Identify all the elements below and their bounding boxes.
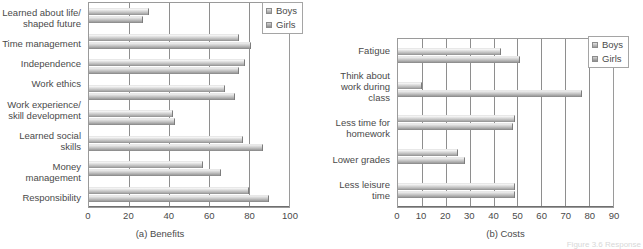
bar-girls	[89, 169, 221, 176]
bar-group	[89, 34, 289, 49]
figure-credit: Figure 3.6 Response	[567, 240, 641, 249]
bar-group	[89, 110, 289, 125]
x-tick-label: 40	[488, 210, 499, 221]
bar-girls	[89, 93, 235, 100]
chart-b-x-tick-labels: 0102030405060708090	[397, 210, 614, 222]
x-tick-label: 0	[394, 210, 399, 221]
chart-b-category-labels: FatigueThink about work during classLess…	[320, 38, 393, 208]
x-tick-label: 90	[609, 210, 620, 221]
bar-girls	[89, 42, 251, 49]
x-tick-label: 60	[536, 210, 547, 221]
category-label: Money management	[0, 161, 84, 183]
category-label: Fatigue	[320, 45, 393, 56]
legend-swatch-boys-icon	[266, 8, 272, 14]
chart-b-subcaption: (b) Costs	[397, 228, 614, 239]
bar-boys	[89, 136, 243, 143]
bar-boys	[89, 34, 239, 41]
bar-group	[89, 85, 289, 100]
bar-boys	[398, 115, 515, 122]
category-label: Time management	[0, 38, 84, 49]
x-tick-label: 40	[164, 210, 175, 221]
chart-a-plot-area	[88, 2, 290, 208]
bar-girls	[398, 123, 513, 130]
legend-label-girls: Girls	[602, 54, 622, 64]
figure-container: Learned about life/ shaped futureTime ma…	[0, 0, 643, 249]
legend-swatch-boys-icon	[592, 42, 598, 48]
bar-girls	[398, 56, 520, 63]
bar-group	[89, 136, 289, 151]
chart-b-x-axis-line	[398, 206, 613, 207]
category-label: Learned about life/ shaped future	[0, 7, 84, 29]
bar-group	[89, 187, 289, 202]
bar-group	[398, 115, 613, 130]
bar-group	[398, 48, 613, 63]
bar-boys	[398, 183, 515, 190]
bar-girls	[89, 67, 239, 74]
chart-b-plot-area	[397, 38, 614, 208]
bar-group	[89, 8, 289, 23]
chart-a-category-labels: Learned about life/ shaped futureTime ma…	[0, 2, 84, 208]
category-label: Work ethics	[0, 78, 84, 89]
legend-swatch-girls-icon	[266, 22, 272, 28]
chart-b-legend: Boys Girls	[588, 36, 629, 68]
x-tick-label: 20	[440, 210, 451, 221]
bar-boys	[89, 85, 225, 92]
bar-girls	[89, 144, 263, 151]
legend-label-girls: Girls	[276, 20, 296, 30]
legend-label-boys: Boys	[602, 40, 623, 50]
bar-group	[89, 59, 289, 74]
chart-a-benefits: Learned about life/ shaped futureTime ma…	[0, 0, 320, 249]
x-tick-label: 20	[123, 210, 134, 221]
x-tick-label: 100	[282, 210, 298, 221]
legend-swatch-girls-icon	[592, 56, 598, 62]
chart-a-x-axis-line	[89, 206, 289, 207]
x-tick-label: 80	[244, 210, 255, 221]
category-label: Work experience/ skill development	[0, 99, 84, 121]
bar-boys	[89, 161, 203, 168]
bar-girls	[398, 191, 515, 198]
legend-item-boys: Boys	[266, 6, 297, 16]
x-tick-label: 80	[585, 210, 596, 221]
bar-girls	[89, 195, 269, 202]
chart-b-costs: FatigueThink about work during classLess…	[320, 0, 643, 249]
category-label: Responsibility	[0, 192, 84, 203]
category-label: Think about work during class	[320, 70, 393, 103]
category-label: Independence	[0, 58, 84, 69]
bar-group	[398, 149, 613, 164]
bar-boys	[398, 149, 458, 156]
legend-item-girls: Girls	[266, 20, 297, 30]
bar-group	[398, 82, 613, 97]
chart-a-subcaption: (a) Benefits	[0, 228, 320, 239]
x-tick-label: 0	[85, 210, 90, 221]
x-tick-label: 60	[204, 210, 215, 221]
bar-boys	[89, 8, 149, 15]
chart-a-legend: Boys Girls	[262, 2, 303, 34]
category-label: Less time for homework	[320, 117, 393, 139]
bar-boys	[89, 110, 173, 117]
bar-girls	[89, 118, 175, 125]
chart-b-bar-rows	[398, 39, 613, 207]
bar-boys	[89, 187, 249, 194]
x-tick-label: 50	[512, 210, 523, 221]
legend-label-boys: Boys	[276, 6, 297, 16]
bar-girls	[398, 157, 465, 164]
x-tick-label: 70	[560, 210, 571, 221]
bar-group	[398, 183, 613, 198]
chart-a-bar-rows	[89, 3, 289, 207]
bar-boys	[398, 48, 501, 55]
category-label: Less leisure time	[320, 179, 393, 201]
bar-boys	[398, 82, 422, 89]
legend-item-girls: Girls	[592, 54, 623, 64]
chart-a-x-tick-labels: 020406080100	[88, 210, 290, 222]
category-label: Learned social skills	[0, 130, 84, 152]
bar-girls	[398, 90, 582, 97]
bar-boys	[89, 59, 245, 66]
x-tick-label: 10	[416, 210, 427, 221]
bar-group	[89, 161, 289, 176]
x-tick-label: 30	[464, 210, 475, 221]
legend-item-boys: Boys	[592, 40, 623, 50]
category-label: Lower grades	[320, 154, 393, 165]
bar-girls	[89, 16, 143, 23]
